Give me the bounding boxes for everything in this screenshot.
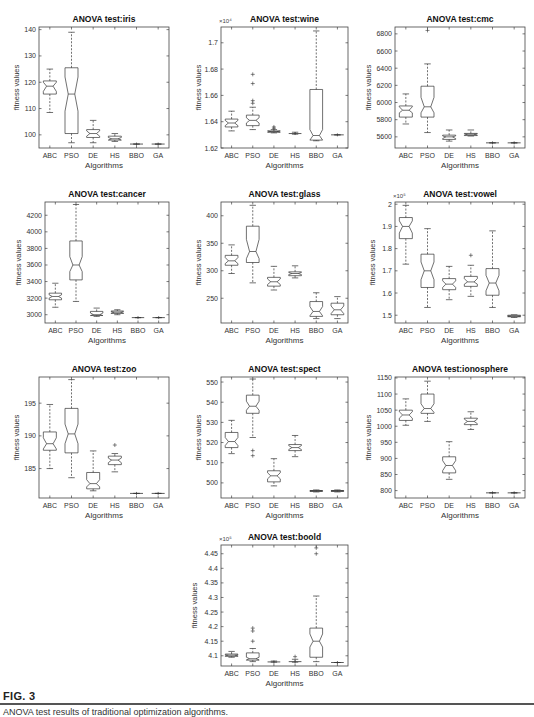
- y-tick-label: 6000: [376, 99, 392, 106]
- x-axis-label: Algorithms: [441, 336, 479, 345]
- x-tick-label: HS: [290, 152, 300, 159]
- y-tick-label: 4.35: [204, 579, 218, 586]
- box-DE: [443, 266, 456, 299]
- y-tick-label: 100: [24, 131, 36, 138]
- boxplot-zoo: ANOVA test:zoo185190195fitness valuesABC…: [12, 364, 169, 520]
- y-tick-label: 300: [206, 267, 218, 274]
- x-tick-label: BBO: [485, 152, 500, 159]
- y-tick-label: 5600: [376, 133, 392, 140]
- x-tick-label: DE: [269, 152, 279, 159]
- y-axis-label: fitness values: [364, 415, 373, 461]
- y-tick-label: 1000: [376, 423, 392, 430]
- y-tick-label: 1.6: [382, 290, 392, 297]
- box-ABC: [399, 205, 412, 264]
- x-axis-label: Algorithms: [85, 161, 123, 170]
- boxplot-boold: ANOVA test:boold×10⁵4.14.154.24.254.34.3…: [190, 532, 348, 688]
- x-tick-label: DE: [444, 502, 454, 509]
- box-BBO: [310, 490, 323, 492]
- box-GA: [331, 490, 344, 492]
- y-tick-label: 1.7: [208, 39, 218, 46]
- x-tick-label: HS: [466, 327, 476, 334]
- box-BBO: [486, 231, 499, 308]
- x-tick-label: ABC: [399, 502, 413, 509]
- x-tick-label: GA: [153, 502, 163, 509]
- y-tick-label: 1.8: [382, 245, 392, 252]
- x-tick-label: GA: [509, 502, 519, 509]
- y-tick-label: 130: [24, 52, 36, 59]
- plot-frame: [221, 202, 348, 323]
- box-DE: [87, 451, 100, 491]
- y-tick-label: 800: [380, 487, 392, 494]
- box-HS: [111, 310, 123, 315]
- x-tick-label: GA: [154, 327, 164, 334]
- box-GA: [508, 491, 521, 494]
- boxplot-wine: ANOVA test:wine×10⁴1.621.641.661.681.7fi…: [194, 14, 348, 170]
- chart-title: ANOVA test:glass: [249, 189, 321, 199]
- box-BBO: [310, 31, 323, 141]
- box-GA: [152, 316, 164, 319]
- box-ABC: [225, 111, 238, 131]
- y-tick-label: 190: [24, 432, 36, 439]
- y-tick-label: 2: [388, 201, 392, 208]
- x-tick-label: DE: [88, 152, 98, 159]
- box-HS: [108, 443, 121, 472]
- plot-frame: [39, 377, 169, 498]
- box-DE: [268, 660, 281, 663]
- boxplot-cancer: ANOVA test:cancer30003200340036003800400…: [14, 189, 169, 345]
- y-tick-label: 540: [206, 399, 218, 406]
- x-tick-label: ABC: [399, 152, 413, 159]
- y-axis-label: fitness values: [194, 65, 203, 111]
- x-axis-label: Algorithms: [266, 161, 304, 170]
- x-tick-label: PSO: [69, 327, 84, 334]
- x-axis-label: Algorithms: [85, 511, 123, 520]
- x-tick-label: HS: [112, 327, 122, 334]
- box-GA: [508, 315, 521, 318]
- x-axis-label: Algorithms: [266, 336, 304, 345]
- y-axis-label: fitness values: [194, 415, 203, 461]
- plot-frame: [395, 202, 525, 323]
- box-BBO: [132, 316, 144, 319]
- x-tick-label: ABC: [224, 502, 238, 509]
- y-tick-label: 4.45: [204, 550, 218, 557]
- y-tick-label: 3800: [26, 245, 42, 252]
- y-tick-label: 4.3: [208, 594, 218, 601]
- x-tick-label: GA: [332, 502, 342, 509]
- x-tick-label: GA: [332, 670, 342, 677]
- y-tick-label: 6800: [376, 30, 392, 37]
- plot-frame: [221, 27, 348, 148]
- x-tick-label: HS: [466, 152, 476, 159]
- x-tick-label: DE: [269, 327, 279, 334]
- y-axis-label: fitness values: [12, 415, 21, 461]
- box-PSO: [421, 28, 434, 132]
- x-tick-label: DE: [92, 327, 102, 334]
- y-tick-label: 4.25: [204, 609, 218, 616]
- chart-title: ANOVA test:cmc: [426, 14, 493, 24]
- x-tick-label: HS: [110, 502, 120, 509]
- y-tick-label: 4.2: [208, 623, 218, 630]
- boxplot-cmc: ANOVA test:cmc56005800600062006400660068…: [364, 14, 525, 170]
- box-PSO: [65, 380, 78, 478]
- y-tick-label: 350: [206, 240, 218, 247]
- x-tick-label: PSO: [64, 152, 79, 159]
- chart-title: ANOVA test:ionosphere: [412, 364, 508, 374]
- y-tick-label: 950: [380, 439, 392, 446]
- box-GA: [508, 141, 521, 144]
- box-BBO: [486, 491, 499, 494]
- y-axis-label: fitness values: [190, 583, 199, 629]
- chart-title: ANOVA test:boold: [248, 532, 321, 542]
- box-PSO: [246, 379, 259, 458]
- x-tick-label: HS: [110, 152, 120, 159]
- plot-frame: [39, 27, 169, 148]
- boxplot-glass: ANOVA test:glass250300350400fitness valu…: [194, 189, 348, 345]
- x-tick-label: PSO: [420, 327, 435, 334]
- x-tick-label: BBO: [309, 502, 324, 509]
- x-axis-label: Algorithms: [266, 511, 304, 520]
- box-HS: [289, 655, 302, 663]
- x-tick-label: HS: [466, 502, 476, 509]
- y-tick-label: 1.62: [204, 145, 218, 152]
- y-tick-label: 6200: [376, 82, 392, 89]
- anova-boxplot-grid: ANOVA test:iris100110120130140fitness va…: [0, 0, 534, 690]
- box-PSO: [65, 32, 78, 142]
- y-tick-label: 1.66: [204, 92, 218, 99]
- axis-exponent: ×10⁵: [393, 193, 406, 199]
